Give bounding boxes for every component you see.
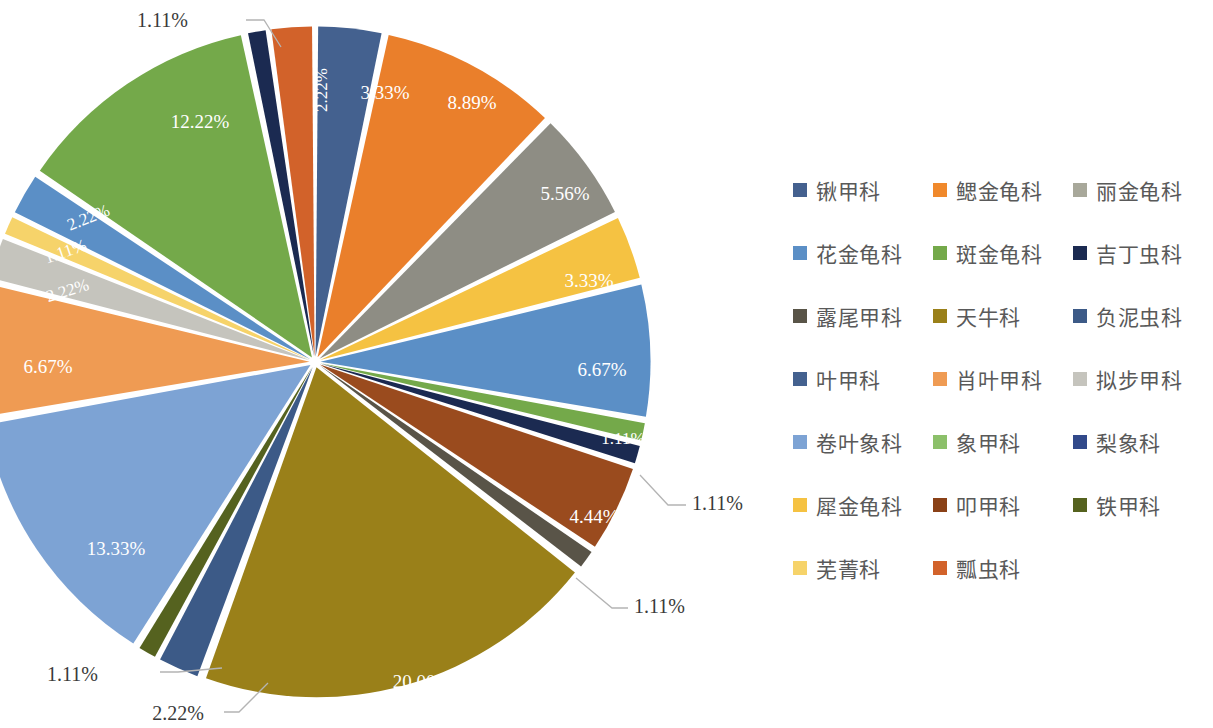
pie-chart-svg: 3.33%8.89%5.56%3.33%6.67%1.11%1.11%4.44%… — [0, 0, 760, 728]
legend-item[interactable]: 象甲科 — [933, 410, 1073, 473]
slice-value-label: 3.33% — [564, 270, 613, 291]
legend-item[interactable]: 梨象科 — [1073, 410, 1213, 473]
legend-swatch-icon — [793, 246, 807, 260]
pie-slices-group — [0, 27, 650, 698]
slice-value-label: 6.67% — [23, 356, 72, 377]
legend-item-label: 犀金龟科 — [816, 490, 902, 520]
legend-item-label: 梨象科 — [1096, 427, 1161, 457]
legend-item-label: 斑金龟科 — [956, 238, 1042, 268]
legend-row: 芜菁科瓢虫科 — [793, 536, 1213, 599]
legend-item[interactable]: 斑金龟科 — [933, 221, 1073, 284]
legend-item-label: 肖叶甲科 — [956, 364, 1042, 394]
legend-swatch-icon — [933, 372, 947, 386]
legend-item-label: 叶甲科 — [816, 364, 881, 394]
legend-item[interactable]: 铁甲科 — [1073, 473, 1213, 536]
legend-row: 叶甲科肖叶甲科拟步甲科 — [793, 347, 1213, 410]
legend-row: 犀金龟科叩甲科铁甲科 — [793, 473, 1213, 536]
legend-swatch-icon — [933, 183, 947, 197]
legend-item-label: 铁甲科 — [1096, 490, 1161, 520]
slice-value-label: 1.11% — [601, 429, 644, 448]
slice-value-label: 4.44% — [569, 506, 618, 527]
pie-chart-area: 3.33%8.89%5.56%3.33%6.67%1.11%1.11%4.44%… — [0, 0, 760, 728]
legend-item[interactable]: 花金龟科 — [793, 221, 933, 284]
legend-item-label: 拟步甲科 — [1096, 364, 1182, 394]
legend-item[interactable]: 叩甲科 — [933, 473, 1073, 536]
legend-swatch-icon — [1073, 309, 1087, 323]
legend-item-label: 露尾甲科 — [816, 301, 902, 331]
slice-value-label: 8.89% — [447, 92, 496, 113]
legend-item-label: 花金龟科 — [816, 238, 902, 268]
slice-value-label: 2.22% — [312, 68, 331, 112]
legend-swatch-icon — [933, 246, 947, 260]
legend-item[interactable]: 负泥虫科 — [1073, 284, 1213, 347]
legend-item-label: 瓢虫科 — [956, 553, 1021, 583]
legend-swatch-icon — [793, 435, 807, 449]
legend-item[interactable]: 芜菁科 — [793, 536, 933, 599]
callout-leader-line — [576, 578, 628, 608]
legend-item-label: 鳃金龟科 — [956, 175, 1042, 205]
legend-swatch-icon — [1073, 372, 1087, 386]
legend-item[interactable]: 叶甲科 — [793, 347, 933, 410]
legend-item[interactable]: 露尾甲科 — [793, 284, 933, 347]
legend-item-label: 芜菁科 — [816, 553, 881, 583]
slice-value-label: 1.11% — [137, 9, 188, 31]
legend-item[interactable]: 鳃金龟科 — [933, 158, 1073, 221]
legend-swatch-icon — [1073, 498, 1087, 512]
legend-swatch-icon — [933, 309, 947, 323]
legend-item[interactable]: 卷叶象科 — [793, 410, 933, 473]
legend-item[interactable]: 丽金龟科 — [1073, 158, 1213, 221]
legend-item[interactable]: 瓢虫科 — [933, 536, 1073, 599]
slice-value-label: 6.67% — [577, 359, 626, 380]
legend-swatch-icon — [793, 498, 807, 512]
callout-leader-line — [640, 475, 686, 505]
slice-value-label: 1.11% — [692, 492, 743, 514]
legend-item-label: 负泥虫科 — [1096, 301, 1182, 331]
legend-item[interactable]: 肖叶甲科 — [933, 347, 1073, 410]
legend-item[interactable]: 锹甲科 — [793, 158, 933, 221]
legend-swatch-icon — [933, 435, 947, 449]
slice-value-label: 2.22% — [152, 702, 204, 724]
legend-item[interactable]: 天牛科 — [933, 284, 1073, 347]
legend-item-label: 象甲科 — [956, 427, 1021, 457]
legend-item-label: 天牛科 — [956, 301, 1021, 331]
slice-value-label: 3.33% — [360, 82, 409, 103]
chart-legend: 锹甲科鳃金龟科丽金龟科花金龟科斑金龟科吉丁虫科露尾甲科天牛科负泥虫科叶甲科肖叶甲… — [793, 158, 1213, 599]
legend-item-label: 吉丁虫科 — [1096, 238, 1182, 268]
pie-chart-page: 3.33%8.89%5.56%3.33%6.67%1.11%1.11%4.44%… — [0, 0, 1213, 728]
legend-swatch-icon — [933, 561, 947, 575]
slice-value-label: 20.00% — [393, 671, 452, 692]
legend-item[interactable]: 犀金龟科 — [793, 473, 933, 536]
legend-swatch-icon — [933, 498, 947, 512]
legend-swatch-icon — [1073, 183, 1087, 197]
slice-value-label: 13.33% — [87, 538, 146, 559]
legend-row: 卷叶象科象甲科梨象科 — [793, 410, 1213, 473]
legend-item-label: 叩甲科 — [956, 490, 1021, 520]
slice-value-label: 1.11% — [634, 595, 685, 617]
legend-swatch-icon — [793, 372, 807, 386]
slice-value-label: 1.11% — [47, 663, 98, 685]
legend-swatch-icon — [1073, 246, 1087, 260]
legend-item[interactable]: 拟步甲科 — [1073, 347, 1213, 410]
legend-row: 锹甲科鳃金龟科丽金龟科 — [793, 158, 1213, 221]
legend-item-label: 锹甲科 — [816, 175, 881, 205]
slice-value-label: 12.22% — [171, 111, 230, 132]
legend-swatch-icon — [793, 183, 807, 197]
legend-row: 花金龟科斑金龟科吉丁虫科 — [793, 221, 1213, 284]
legend-swatch-icon — [793, 309, 807, 323]
legend-swatch-icon — [793, 561, 807, 575]
slice-value-label: 5.56% — [540, 183, 589, 204]
legend-item[interactable]: 吉丁虫科 — [1073, 221, 1213, 284]
legend-swatch-icon — [1073, 435, 1087, 449]
legend-item-label: 卷叶象科 — [816, 427, 902, 457]
legend-item-label: 丽金龟科 — [1096, 175, 1182, 205]
legend-row: 露尾甲科天牛科负泥虫科 — [793, 284, 1213, 347]
